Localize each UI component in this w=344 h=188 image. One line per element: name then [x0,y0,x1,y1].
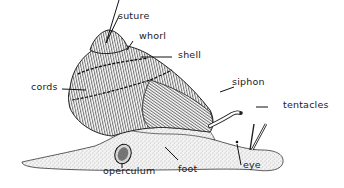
label-shell: shell [178,50,201,60]
label-foot: foot [178,164,198,174]
label-eye: eye [243,160,261,170]
label-cords: cords [31,82,58,92]
label-tentacles: tentacles [283,100,329,110]
eye [236,141,239,144]
snail-diagram [0,0,344,188]
label-siphon: siphon [232,77,265,87]
label-whorl: whorl [139,31,166,41]
label-suture: suture [118,11,149,21]
label-operculum: operculum [103,166,155,176]
leader-siphon [220,87,234,92]
